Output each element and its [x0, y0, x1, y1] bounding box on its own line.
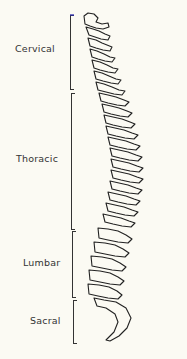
vertebra-l4 — [89, 270, 124, 285]
sacrum — [94, 298, 131, 341]
spine-illustration — [0, 0, 187, 359]
vertebra-t4 — [106, 126, 138, 139]
vertebra-l2 — [94, 242, 129, 257]
vertebra-t5 — [108, 137, 140, 150]
vertebra-t6 — [110, 148, 142, 161]
vertebra-c1 — [84, 13, 109, 29]
vertebra-l1 — [98, 228, 132, 243]
vertebra-l5 — [88, 284, 122, 299]
vertebra-l3 — [91, 256, 126, 271]
